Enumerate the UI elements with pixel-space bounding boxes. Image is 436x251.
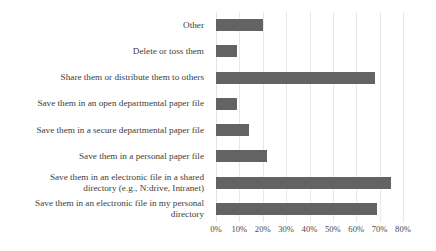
category-label: Other: [0, 12, 210, 38]
bar: [216, 45, 237, 57]
bar: [216, 98, 237, 110]
bar-row: [216, 38, 403, 64]
category-label: Delete or toss them: [0, 38, 210, 64]
bar: [216, 124, 249, 136]
x-tick-label: 20%: [255, 224, 271, 234]
category-axis-labels: OtherDelete or toss themShare them or di…: [0, 12, 210, 222]
bar: [216, 150, 267, 162]
category-label-line: Save them in an electronic file in my pe…: [35, 198, 204, 209]
bar-chart: OtherDelete or toss themShare them or di…: [0, 0, 436, 251]
x-tick-label: 80%: [395, 224, 411, 234]
bar-row: [216, 170, 403, 196]
x-tick-label: 30%: [278, 224, 294, 234]
bar: [216, 203, 377, 215]
category-label: Share them or distribute them to others: [0, 65, 210, 91]
x-tick-label: 70%: [372, 224, 388, 234]
bar-row: [216, 65, 403, 91]
category-label: Save them in a personal paper file: [0, 143, 210, 169]
category-label-line: directory: [35, 209, 204, 220]
plot-area: [216, 12, 403, 222]
x-tick-label: 0%: [210, 224, 221, 234]
category-label-line: Save them in a secure departmental paper…: [36, 125, 204, 136]
bar-rows: [216, 12, 403, 222]
category-label-line: Save them in an electronic file in a sha…: [50, 172, 204, 183]
x-tick-label: 50%: [325, 224, 341, 234]
category-label-line: Share them or distribute them to others: [61, 72, 204, 83]
category-label: Save them in an electronic file in my pe…: [0, 196, 210, 222]
category-label-line: Save them in a personal paper file: [79, 151, 204, 162]
category-label: Save them in a secure departmental paper…: [0, 117, 210, 143]
category-label-line: Delete or toss them: [133, 46, 204, 57]
x-tick-label: 10%: [231, 224, 247, 234]
category-label-line: directory (e.g., N:drive, Intranet): [50, 183, 204, 194]
bar-row: [216, 91, 403, 117]
gridline-80pct: [403, 12, 404, 222]
category-label: Save them in an electronic file in a sha…: [0, 170, 210, 196]
bar-row: [216, 196, 403, 222]
category-label: Save them in an open departmental paper …: [0, 91, 210, 117]
bar-row: [216, 12, 403, 38]
category-label-line: Other: [183, 20, 204, 31]
value-axis: 0%10%20%30%40%50%60%70%80%: [216, 224, 403, 240]
bar-row: [216, 117, 403, 143]
bar: [216, 19, 263, 31]
x-tick-label: 60%: [348, 224, 364, 234]
bar: [216, 177, 391, 189]
x-tick-label: 40%: [302, 224, 318, 234]
category-label-line: Save them in an open departmental paper …: [37, 98, 204, 109]
bar-row: [216, 143, 403, 169]
bar: [216, 72, 375, 84]
